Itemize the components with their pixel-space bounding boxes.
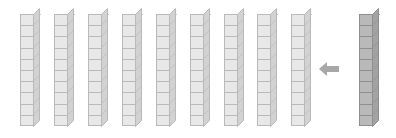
- unit-cube-segment: [21, 82, 33, 93]
- unit-cube-segment: [360, 49, 372, 60]
- rod-front-face: [20, 14, 34, 126]
- unit-cube-segment: [157, 93, 169, 104]
- unit-cube-segment: [225, 71, 237, 82]
- unit-cube-segment: [55, 116, 67, 127]
- unit-cube-segment: [123, 71, 135, 82]
- unit-cube-segment: [157, 15, 169, 26]
- rod-side-face: [33, 8, 40, 127]
- unit-cube-segment: [191, 60, 203, 71]
- rod-front-face: [88, 14, 102, 126]
- unit-cube-segment: [292, 26, 304, 37]
- unit-cube-segment: [360, 71, 372, 82]
- unit-cube-segment: [258, 82, 270, 93]
- unit-cube-segment: [360, 60, 372, 71]
- unit-cube-segment: [191, 116, 203, 127]
- unit-cube-segment: [292, 37, 304, 48]
- unit-cube-segment: [157, 82, 169, 93]
- rod-side-face: [169, 8, 176, 127]
- unit-cube-segment: [89, 82, 101, 93]
- unit-cube-segment: [21, 105, 33, 116]
- unit-cube-segment: [191, 82, 203, 93]
- unit-cube-segment: [123, 26, 135, 37]
- unit-cube-segment: [360, 105, 372, 116]
- base-ten-rods-canvas: [0, 0, 396, 138]
- unit-cube-segment: [225, 37, 237, 48]
- unit-cube-segment: [292, 116, 304, 127]
- unit-cube-segment: [292, 15, 304, 26]
- rod-front-face: [359, 14, 373, 126]
- base-ten-rod[interactable]: [257, 14, 271, 126]
- unit-cube-segment: [225, 116, 237, 127]
- unit-cube-segment: [191, 93, 203, 104]
- rod-front-face: [156, 14, 170, 126]
- unit-cube-segment: [360, 82, 372, 93]
- unit-cube-segment: [55, 82, 67, 93]
- unit-cube-segment: [21, 37, 33, 48]
- unit-cube-segment: [89, 15, 101, 26]
- unit-cube-segment: [191, 49, 203, 60]
- base-ten-rod[interactable]: [54, 14, 68, 126]
- unit-cube-segment: [292, 49, 304, 60]
- unit-cube-segment: [55, 15, 67, 26]
- unit-cube-segment: [258, 116, 270, 127]
- unit-cube-segment: [258, 49, 270, 60]
- unit-cube-segment: [89, 93, 101, 104]
- unit-cube-segment: [191, 15, 203, 26]
- unit-cube-segment: [21, 26, 33, 37]
- rod-side-face: [203, 8, 210, 127]
- unit-cube-segment: [360, 37, 372, 48]
- base-ten-rod[interactable]: [190, 14, 204, 126]
- unit-cube-segment: [89, 37, 101, 48]
- rod-side-face: [270, 8, 277, 127]
- unit-cube-segment: [360, 26, 372, 37]
- unit-cube-segment: [225, 15, 237, 26]
- unit-cube-segment: [292, 82, 304, 93]
- unit-cube-segment: [157, 49, 169, 60]
- unit-cube-segment: [55, 93, 67, 104]
- unit-cube-segment: [21, 15, 33, 26]
- unit-cube-segment: [191, 37, 203, 48]
- unit-cube-segment: [157, 71, 169, 82]
- rod-side-face: [372, 8, 379, 127]
- unit-cube-segment: [123, 15, 135, 26]
- unit-cube-segment: [292, 93, 304, 104]
- unit-cube-segment: [157, 37, 169, 48]
- unit-cube-segment: [89, 60, 101, 71]
- base-ten-rod[interactable]: [122, 14, 136, 126]
- base-ten-rod[interactable]: [224, 14, 238, 126]
- base-ten-rod[interactable]: [359, 14, 373, 126]
- rod-front-face: [190, 14, 204, 126]
- unit-cube-segment: [123, 49, 135, 60]
- unit-cube-segment: [21, 116, 33, 127]
- unit-cube-segment: [360, 15, 372, 26]
- unit-cube-segment: [258, 15, 270, 26]
- unit-cube-segment: [89, 49, 101, 60]
- unit-cube-segment: [21, 60, 33, 71]
- unit-cube-segment: [89, 105, 101, 116]
- unit-cube-segment: [55, 37, 67, 48]
- unit-cube-segment: [157, 105, 169, 116]
- unit-cube-segment: [89, 116, 101, 127]
- base-ten-rod[interactable]: [291, 14, 305, 126]
- rod-front-face: [54, 14, 68, 126]
- unit-cube-segment: [360, 116, 372, 127]
- unit-cube-segment: [123, 82, 135, 93]
- unit-cube-segment: [89, 71, 101, 82]
- unit-cube-segment: [21, 71, 33, 82]
- rod-side-face: [237, 8, 244, 127]
- unit-cube-segment: [123, 93, 135, 104]
- unit-cube-segment: [55, 26, 67, 37]
- base-ten-rod[interactable]: [156, 14, 170, 126]
- base-ten-rod[interactable]: [20, 14, 34, 126]
- rod-side-face: [304, 8, 311, 127]
- move-left-arrow-icon: [319, 61, 339, 77]
- unit-cube-segment: [225, 49, 237, 60]
- unit-cube-segment: [157, 26, 169, 37]
- unit-cube-segment: [123, 105, 135, 116]
- base-ten-rod[interactable]: [88, 14, 102, 126]
- rod-front-face: [122, 14, 136, 126]
- unit-cube-segment: [258, 105, 270, 116]
- unit-cube-segment: [258, 71, 270, 82]
- unit-cube-segment: [191, 71, 203, 82]
- unit-cube-segment: [292, 71, 304, 82]
